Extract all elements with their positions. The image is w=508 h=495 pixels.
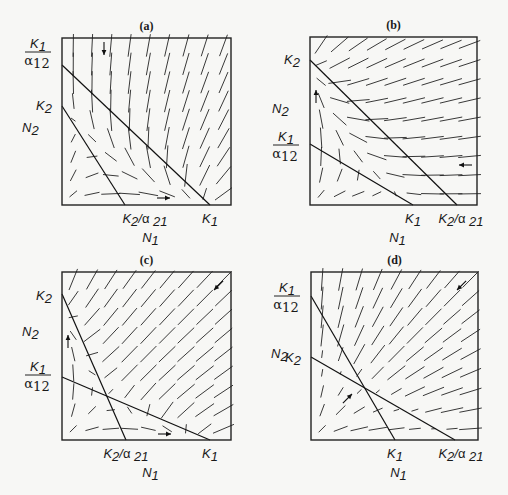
panel-c-xlabel-1: K2/α 21 [103, 446, 148, 464]
panel-d-arrow-up-right-icon [343, 394, 352, 403]
panel-c-vector-field [69, 269, 234, 433]
panel-c-ylabel-1: K2 [36, 288, 53, 306]
panel-c-arrow-up-icon [66, 335, 71, 348]
svg-text:α12: α12 [24, 53, 49, 71]
svg-text:α12: α12 [272, 146, 297, 164]
panel-b-xlabel-1: K1 [405, 211, 421, 229]
svg-text:K1: K1 [387, 446, 403, 464]
panel-b-yaxis-title: N2 [272, 101, 289, 119]
panel-a-xlabel-1: K2/α 21 [122, 211, 167, 229]
svg-text:K1: K1 [278, 129, 294, 147]
panel-d-xaxis-title: N1 [390, 465, 407, 483]
svg-text:N1: N1 [389, 230, 406, 248]
panel-b: (b)K2K1α12K1K2/α 21N1N2 [272, 18, 484, 248]
svg-text:α12: α12 [24, 376, 49, 394]
svg-text:K1: K1 [202, 211, 218, 229]
panel-a-xlabel-2: K1 [202, 211, 218, 229]
panel-a-xaxis-title: N1 [142, 230, 159, 248]
svg-text:α12: α12 [273, 297, 298, 315]
panel-b-title: (b) [386, 18, 401, 32]
panel-c-isocline-1 [62, 294, 126, 440]
svg-text:K2/α 21: K2/α 21 [103, 446, 148, 464]
panel-a-arrow-right-icon [157, 196, 170, 201]
panel-a-isocline-2 [62, 106, 125, 205]
panel-a-ylabel-2: K2 [36, 98, 53, 116]
svg-text:N2: N2 [272, 101, 289, 119]
panel-c-ylabel-2: K1α12 [24, 359, 51, 394]
panel-b-vector-field [315, 36, 480, 198]
panel-d: (d)K1α12K2K1K2/α 21N1N2 [271, 253, 484, 483]
panel-a-title: (a) [140, 19, 154, 33]
svg-text:K1: K1 [202, 446, 218, 464]
panel-c-arrow-right-icon [158, 432, 171, 437]
svg-text:K2/α 21: K2/α 21 [438, 446, 483, 464]
panel-d-xlabel-1: K1 [387, 446, 403, 464]
panel-a-frame [62, 38, 231, 205]
panel-a-isocline-1 [62, 65, 210, 205]
panel-b-arrow-up-icon [314, 90, 319, 103]
panel-c-xlabel-2: K1 [202, 446, 218, 464]
svg-text:K1: K1 [405, 211, 421, 229]
panel-b-ylabel-2: K1α12 [272, 129, 299, 164]
svg-text:K1: K1 [279, 280, 295, 298]
panel-c-xaxis-title: N1 [142, 465, 159, 483]
svg-text:K2: K2 [36, 98, 53, 116]
panel-b-isocline-1 [310, 60, 457, 205]
svg-text:K2: K2 [284, 52, 301, 70]
panel-b-xaxis-title: N1 [389, 230, 406, 248]
panel-c-yaxis-title: N2 [22, 324, 39, 342]
panel-a-ylabel-1: K1α12 [24, 36, 51, 71]
panel-d-ylabel-1: K1α12 [273, 280, 300, 315]
panel-c-title: (c) [140, 253, 153, 267]
svg-text:K1: K1 [30, 36, 46, 54]
panel-a-arrow-down-icon [102, 42, 107, 55]
svg-text:N2: N2 [22, 324, 39, 342]
panel-b-ylabel-1: K2 [284, 52, 301, 70]
panel-d-xlabel-2: K2/α 21 [438, 446, 483, 464]
svg-text:K2/α 21: K2/α 21 [438, 211, 483, 229]
svg-text:K2/α 21: K2/α 21 [122, 211, 167, 229]
panel-b-xlabel-2: K2/α 21 [438, 211, 483, 229]
panel-d-yaxis-title: N2 [271, 346, 288, 364]
panel-a: (a)K1α12K2K2/α 21K1N1N2 [22, 19, 232, 248]
panel-b-isocline-2 [310, 144, 413, 205]
panel-b-arrow-left-icon [459, 163, 472, 168]
competition-phase-plane-figure: (a)K1α12K2K2/α 21K1N1N2(b)K2K1α12K1K2/α … [0, 0, 508, 495]
svg-text:N1: N1 [142, 465, 159, 483]
svg-text:N2: N2 [271, 346, 288, 364]
panel-c: (c)K2K1α12K2/α 21K1N1N2 [22, 253, 234, 483]
panel-c-arrow-down-left-icon [214, 281, 223, 290]
panel-b-frame [310, 37, 477, 205]
panel-d-title: (d) [387, 253, 402, 267]
panel-a-vector-field [70, 34, 232, 199]
svg-text:N1: N1 [390, 465, 407, 483]
svg-text:N1: N1 [142, 230, 159, 248]
panel-a-yaxis-title: N2 [22, 120, 39, 138]
svg-text:K1: K1 [30, 359, 46, 377]
svg-text:N2: N2 [22, 120, 39, 138]
svg-text:K2: K2 [36, 288, 53, 306]
